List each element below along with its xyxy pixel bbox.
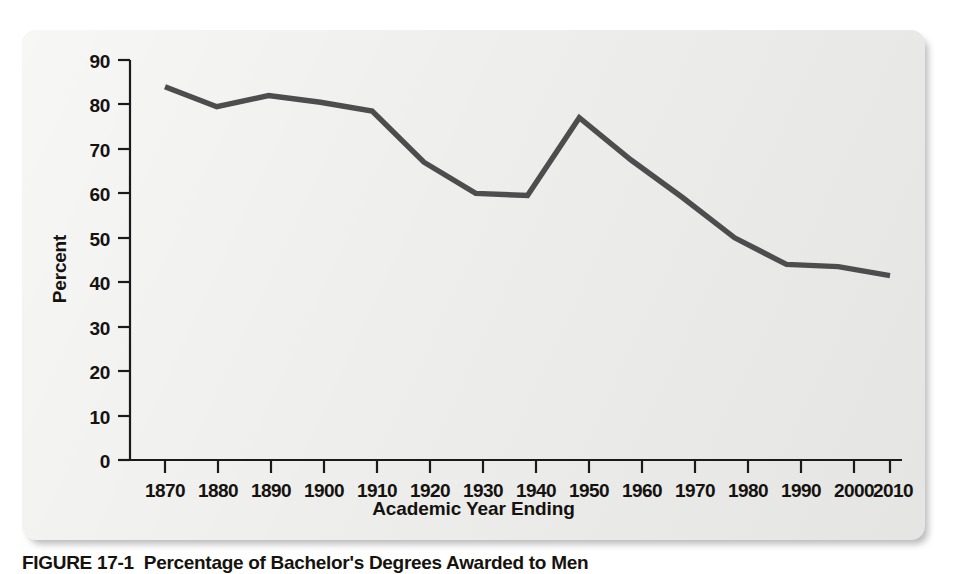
y-tick-label-60: 60	[64, 185, 110, 204]
y-tick-label-90: 90	[64, 52, 110, 71]
y-tick-label-0: 0	[64, 452, 110, 471]
y-tick-label-20: 20	[64, 363, 110, 382]
figure-caption-text: Percentage of Bachelor's Degrees Awarded…	[144, 552, 588, 573]
y-tick-label-10: 10	[64, 408, 110, 427]
x-axis-ticks	[165, 460, 890, 473]
y-axis-title: Percent	[49, 209, 71, 329]
data-series-line	[165, 87, 890, 276]
y-tick-label-70: 70	[64, 141, 110, 160]
figure-caption: FIGURE 17-1Percentage of Bachelor's Degr…	[22, 552, 952, 574]
y-axis-ticks	[118, 60, 130, 460]
figure-caption-number: FIGURE 17-1	[22, 552, 134, 573]
figure-card: 90 80 70 60 50 40 30 20 10 0 1870 1880 1…	[22, 30, 925, 540]
line-chart-svg	[22, 30, 925, 540]
x-axis-title: Academic Year Ending	[22, 498, 925, 520]
y-tick-label-80: 80	[64, 96, 110, 115]
chart-plot-area: 90 80 70 60 50 40 30 20 10 0 1870 1880 1…	[22, 30, 925, 540]
